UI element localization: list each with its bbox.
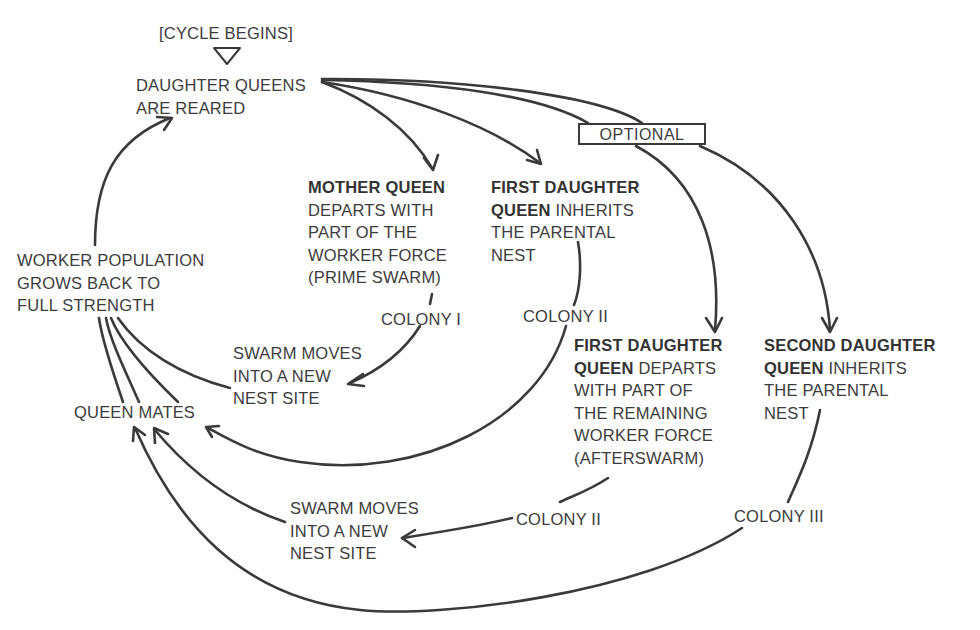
node-line: WORKER FORCE bbox=[308, 244, 447, 267]
arrow-workers-to-daughter-queens bbox=[95, 118, 170, 245]
node-line: NEST SITE bbox=[233, 387, 362, 410]
node-colony-2b: COLONY II bbox=[516, 508, 601, 531]
node-first-daughter-inherits: FIRST DAUGHTER QUEEN INHERITS THE PARENT… bbox=[491, 176, 640, 266]
node-line: INTO A NEW bbox=[233, 365, 362, 388]
arrow-queen-mates-to-workers-2 bbox=[106, 318, 139, 402]
node-line: WORKER POPULATION bbox=[17, 249, 204, 272]
node-title: QUEEN bbox=[764, 359, 824, 377]
node-line: INHERITS bbox=[824, 359, 907, 377]
node-line: WORKER FORCE bbox=[574, 424, 723, 447]
node-line: NEST SITE bbox=[290, 542, 419, 565]
line-departs-to-colony-2b bbox=[560, 478, 608, 502]
node-title: SECOND DAUGHTER bbox=[764, 336, 936, 354]
node-colony-1: COLONY I bbox=[381, 308, 461, 331]
node-mother-queen: MOTHER QUEEN DEPARTS WITH PART OF THE WO… bbox=[308, 176, 447, 289]
node-line: SWARM MOVES bbox=[233, 342, 362, 365]
node-line: DEPARTS WITH bbox=[308, 199, 447, 222]
node-queen-mates: QUEEN MATES bbox=[74, 401, 195, 424]
node-title: FIRST DAUGHTER bbox=[491, 178, 640, 196]
arrow-swarm-2-to-queen-mates bbox=[155, 430, 285, 522]
arrow-swarm-1-to-workers bbox=[118, 318, 230, 388]
node-title: FIRST DAUGHTER bbox=[574, 336, 723, 354]
arrow-to-first-daughter-inherits bbox=[322, 82, 540, 163]
node-title: MOTHER QUEEN bbox=[308, 178, 445, 196]
node-line: THE PARENTAL bbox=[764, 379, 936, 402]
node-line: NEST bbox=[491, 244, 640, 267]
arrow-to-second-daughter bbox=[700, 146, 830, 330]
node-line: PART OF THE bbox=[308, 221, 447, 244]
node-line: INTO A NEW bbox=[290, 520, 419, 543]
node-line: WITH PART OF bbox=[574, 379, 723, 402]
arrowhead bbox=[706, 318, 722, 332]
node-line: NEST bbox=[764, 402, 936, 425]
node-line: THE REMAINING bbox=[574, 402, 723, 425]
node-line: SWARM MOVES bbox=[290, 497, 419, 520]
node-colony-3: COLONY III bbox=[734, 505, 824, 528]
node-line: GROWS BACK TO bbox=[17, 272, 204, 295]
node-title: QUEEN bbox=[574, 359, 634, 377]
cycle-begins-label: [CYCLE BEGINS] bbox=[159, 22, 293, 45]
optional-box: OPTIONAL bbox=[578, 123, 706, 145]
arrow-to-optional-2 bbox=[322, 79, 642, 123]
node-line: FULL STRENGTH bbox=[17, 294, 204, 317]
node-line: DAUGHTER QUEENS bbox=[136, 74, 306, 97]
arrow-to-first-daughter-departs bbox=[636, 146, 716, 330]
node-line: ARE REARED bbox=[136, 97, 306, 120]
node-line: THE PARENTAL bbox=[491, 221, 640, 244]
node-worker-population: WORKER POPULATION GROWS BACK TO FULL STR… bbox=[17, 249, 204, 317]
arrow-to-mother-queen bbox=[322, 82, 432, 168]
node-colony-2a: COLONY II bbox=[523, 305, 608, 328]
node-title: QUEEN bbox=[491, 201, 551, 219]
node-line: INHERITS bbox=[551, 201, 634, 219]
node-swarm-moves-2: SWARM MOVES INTO A NEW NEST SITE bbox=[290, 497, 419, 565]
node-swarm-moves-1: SWARM MOVES INTO A NEW NEST SITE bbox=[233, 342, 362, 410]
node-line: DEPARTS bbox=[634, 359, 717, 377]
line-mother-to-colony-1 bbox=[430, 294, 432, 304]
node-daughter-queens-reared: DAUGHTER QUEENS ARE REARED bbox=[136, 74, 306, 119]
node-second-daughter-inherits: SECOND DAUGHTER QUEEN INHERITS THE PAREN… bbox=[764, 334, 936, 424]
triangle-down-icon bbox=[214, 48, 240, 64]
node-line: (AFTERSWARM) bbox=[574, 447, 723, 470]
node-first-daughter-departs: FIRST DAUGHTER QUEEN DEPARTS WITH PART O… bbox=[574, 334, 723, 469]
node-line: (PRIME SWARM) bbox=[308, 266, 447, 289]
